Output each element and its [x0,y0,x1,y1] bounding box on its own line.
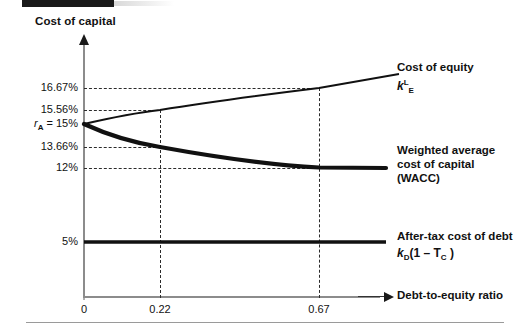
x-tick-067-label: 0.67 [299,303,339,315]
curve-wacc [84,124,386,168]
ke-subscript: E [409,86,414,95]
kd-open: (1 – T [409,246,440,260]
kd-base: k [397,246,404,260]
annotation-wacc-line2: cost of capital [397,157,474,171]
annotation-cost-of-equity: Cost of equity [397,60,474,74]
annotation-after-tax-cost-of-debt-formula: kD(1 – TC ) [397,246,454,262]
curve-cost-of-equity [84,74,399,124]
annotation-wacc-line3: (WACC) [397,171,440,185]
kd-close: ) [447,246,454,260]
annotation-wacc-line1: Weighted average [397,143,495,157]
x-tick-022-label: 0.22 [140,303,180,315]
x-tick-0-label: 0 [64,303,104,315]
x-axis-title: Debt-to-equity ratio [397,288,503,302]
bottom-divider [26,322,504,323]
annotation-after-tax-cost-of-debt: After-tax cost of debt [397,229,513,243]
chart-page: Cost of capital 16.67% 15.56% 13.66% 12%… [0,0,527,334]
annotation-cost-of-equity-formula: kLE [397,78,414,95]
ke-base: k [397,79,404,93]
